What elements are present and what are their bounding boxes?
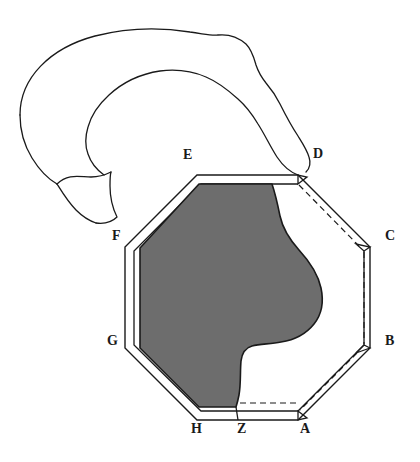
shaded-region-group <box>140 184 322 407</box>
band-outer-edge <box>20 29 310 172</box>
shaded-region <box>140 184 322 407</box>
diagram-canvas <box>0 0 420 462</box>
vertex-label-z: Z <box>237 422 246 436</box>
z-connectors <box>236 407 238 420</box>
band-flap-left <box>57 184 96 223</box>
band-flap-bottom <box>96 172 117 223</box>
vertex-label-a: A <box>300 422 310 436</box>
wedge-b-icon <box>356 345 370 353</box>
dashed-d-c <box>299 185 357 244</box>
vertex-label-g: G <box>107 334 118 348</box>
dashed-b-a <box>300 353 357 410</box>
vertex-label-d: D <box>313 147 323 161</box>
vertex-label-b: B <box>385 334 394 348</box>
vertex-label-e: E <box>183 148 192 162</box>
figure-root: A B C D E F G H Z <box>0 0 420 462</box>
vertex-label-h: H <box>191 422 202 436</box>
band-lower-hook <box>20 115 57 184</box>
vertex-label-f: F <box>112 229 121 243</box>
vertex-label-c: C <box>385 229 395 243</box>
z-tick-line <box>236 407 238 420</box>
